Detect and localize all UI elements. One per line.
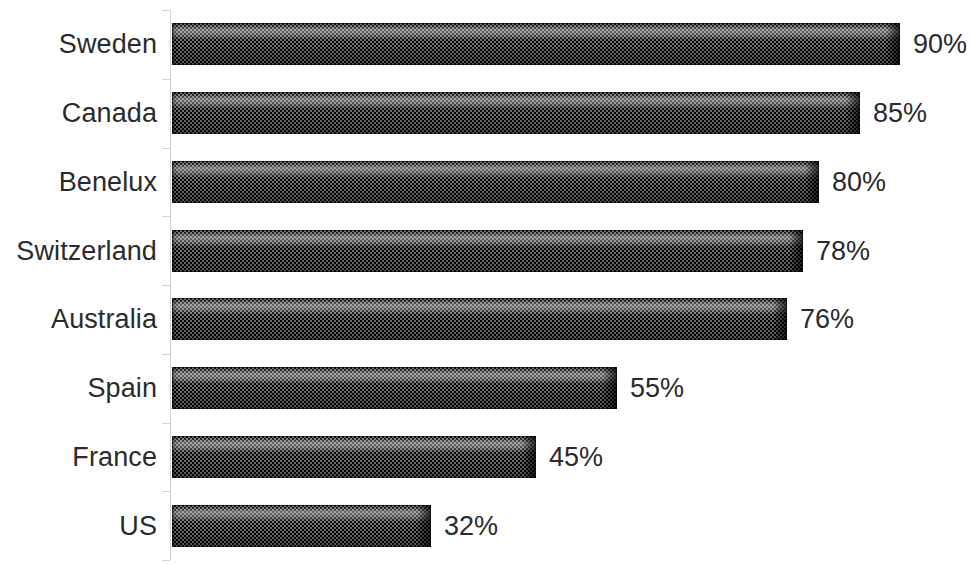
bar: [172, 161, 819, 203]
bar-value-label: 80%: [832, 168, 886, 195]
bar-row: France45%: [0, 423, 971, 492]
bar-value-label: 90%: [913, 31, 967, 58]
bar-row: US32%: [0, 491, 971, 560]
bar-row: Australia76%: [0, 285, 971, 354]
bar: [172, 436, 536, 478]
bar-fill: [172, 367, 617, 409]
bar-row: Benelux80%: [0, 148, 971, 217]
bar-fill: [172, 161, 819, 203]
bar: [172, 23, 900, 65]
bar-fill: [172, 298, 787, 340]
bar-chart: Sweden90%Canada85%Benelux80%Switzerland7…: [0, 0, 971, 565]
bar-value-label: 55%: [630, 375, 684, 402]
category-label: US: [119, 512, 157, 539]
category-label: Sweden: [59, 31, 157, 58]
bar-value-label: 85%: [873, 100, 927, 127]
bar-value-label: 45%: [549, 443, 603, 470]
bar-row: Canada85%: [0, 79, 971, 148]
bar: [172, 367, 617, 409]
category-label: Canada: [62, 100, 157, 127]
bar-fill: [172, 92, 860, 134]
bar-fill: [172, 230, 803, 272]
axis-tick: [162, 560, 170, 561]
bar-row: Switzerland78%: [0, 216, 971, 285]
bar-value-label: 32%: [444, 512, 498, 539]
bar-value-label: 76%: [800, 306, 854, 333]
bar-fill: [172, 23, 900, 65]
bar-fill: [172, 436, 536, 478]
bar: [172, 505, 431, 547]
bar-row: Sweden90%: [0, 10, 971, 79]
bar-fill: [172, 505, 431, 547]
bar: [172, 92, 860, 134]
category-label: Australia: [51, 306, 157, 333]
bar-value-label: 78%: [816, 237, 870, 264]
category-label: France: [72, 443, 157, 470]
category-label: Switzerland: [16, 237, 157, 264]
bar: [172, 298, 787, 340]
bar: [172, 230, 803, 272]
category-label: Benelux: [59, 168, 157, 195]
category-label: Spain: [87, 375, 157, 402]
bar-row: Spain55%: [0, 354, 971, 423]
plot-area: Sweden90%Canada85%Benelux80%Switzerland7…: [0, 0, 971, 565]
